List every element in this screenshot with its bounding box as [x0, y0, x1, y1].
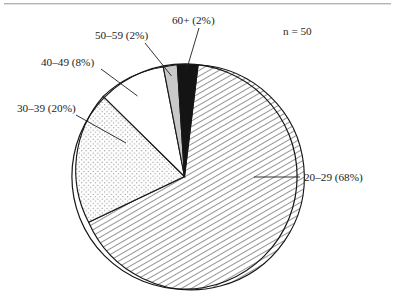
sample-size-annotation: n = 50: [283, 25, 312, 37]
label-50-59: 50–59 (2%): [95, 29, 148, 42]
pie-chart-svg: 60+ (2%) 50–59 (2%) 40–49 (8%) 30–39 (20…: [0, 0, 395, 303]
pie-chart-figure: 60+ (2%) 50–59 (2%) 40–49 (8%) 30–39 (20…: [0, 0, 395, 303]
top-rule-divider: [4, 3, 391, 4]
label-40-49: 40–49 (8%): [41, 56, 94, 69]
label-20-29: 20–29 (68%): [304, 171, 363, 184]
label-60-plus: 60+ (2%): [172, 14, 215, 27]
label-30-39: 30–39 (20%): [17, 102, 76, 115]
